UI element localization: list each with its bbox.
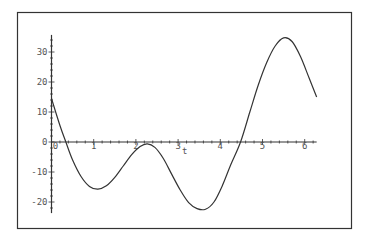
x-tick-label: 4	[218, 141, 223, 151]
x-tick-label: 3	[175, 141, 180, 151]
x-axis-label: t	[182, 146, 187, 156]
chart: 0123456-20-100102030 t	[0, 0, 369, 247]
y-tick-label: -20	[31, 197, 47, 207]
x-tick-label: 0	[53, 141, 58, 151]
x-tick-label: 5	[260, 141, 265, 151]
y-tick-label: 10	[37, 107, 48, 117]
y-tick-label: 30	[37, 47, 48, 57]
x-tick-label: 6	[302, 141, 307, 151]
x-tick-label: 1	[91, 141, 96, 151]
y-tick-label: 20	[37, 77, 48, 87]
y-tick-label: 0	[42, 137, 47, 147]
y-tick-label: -10	[31, 167, 47, 177]
